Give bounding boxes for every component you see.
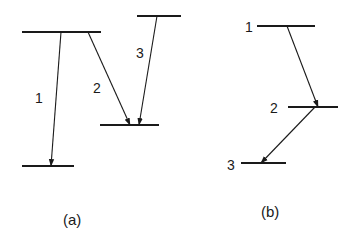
energy-level-diagram: 123(a) 123(b) [0, 0, 361, 243]
transition-label: 3 [136, 45, 144, 61]
panel-a: 123(a) [22, 16, 181, 228]
panel-b: 123(b) [227, 19, 338, 220]
level-label: 3 [227, 157, 235, 173]
transition-arrow [51, 32, 61, 166]
level-label: 1 [245, 19, 253, 35]
transition-arrow [88, 32, 130, 125]
transition-label: 1 [35, 90, 43, 106]
transition-arrow [139, 16, 157, 125]
level-label: 2 [270, 100, 278, 116]
transition-arrow [287, 26, 318, 107]
panel-caption: (b) [261, 203, 279, 220]
panel-caption: (a) [63, 211, 81, 228]
transition-label: 2 [93, 80, 101, 96]
